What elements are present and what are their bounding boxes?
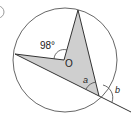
diagram: 98° O a b <box>0 0 133 123</box>
partial-bracket <box>0 6 4 18</box>
extended-line <box>99 96 131 112</box>
angle-label-a: a <box>83 75 88 85</box>
angle-label-98: 98° <box>40 40 55 51</box>
center-label-O: O <box>65 58 73 69</box>
angle-label-b: b <box>115 85 120 95</box>
circle-theorem-figure: 98° O a b <box>0 0 133 123</box>
